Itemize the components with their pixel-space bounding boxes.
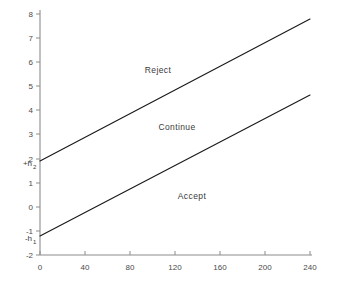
x-tick-label: 0	[38, 263, 43, 272]
region-label-reject: Reject	[145, 65, 172, 75]
y-tick-label: -2	[26, 251, 34, 260]
upper-intercept-text: +h	[23, 159, 32, 168]
x-tick-label: 200	[258, 263, 272, 272]
x-tick-label: 40	[81, 263, 90, 272]
sequential-test-boundaries-chart: 8 7 6 5 4 3 2 1 0 -1 -2 0 40 80 120 160 …	[0, 0, 338, 281]
lower-intercept-text: -h	[25, 234, 32, 243]
y-tick-label: 1	[29, 179, 34, 188]
y-tick-label: 3	[29, 130, 34, 139]
x-tick-label: 120	[168, 263, 182, 272]
region-label-continue: Continue	[158, 122, 195, 132]
region-label-accept: Accept	[178, 191, 207, 201]
y-tick-label: 7	[29, 34, 34, 43]
x-tick-label: 80	[126, 263, 135, 272]
chart-background	[0, 0, 338, 281]
x-tick-label: 160	[213, 263, 227, 272]
y-tick-label: 5	[29, 82, 34, 91]
x-tick-label: 240	[303, 263, 317, 272]
y-tick-label: 4	[29, 106, 34, 115]
y-tick-label: 0	[29, 203, 34, 212]
y-tick-label: 8	[29, 10, 34, 19]
y-tick-label: 6	[29, 58, 34, 67]
